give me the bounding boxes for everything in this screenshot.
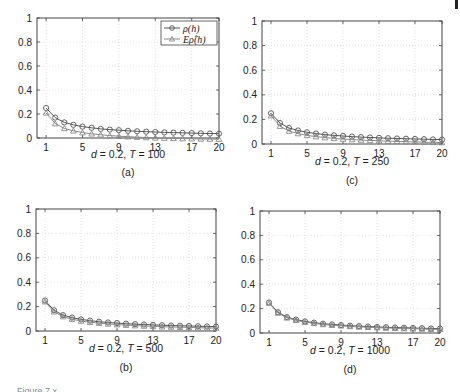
x-tick-label: 1: [266, 337, 272, 348]
x-tick-label: 5: [302, 337, 308, 348]
y-tick-label: 0.2: [241, 303, 255, 314]
y-tick-label: 0.6: [241, 254, 255, 265]
y-tick-label: 0.8: [241, 230, 255, 241]
x-tick-label: 17: [407, 337, 419, 348]
chart-panel-d: 00.20.40.60.81159131720d = 0.2, T = 1000…: [0, 0, 460, 392]
x-tick-label: 20: [434, 337, 446, 348]
chart-svg-d: 00.20.40.60.81159131720d = 0.2, T = 1000…: [0, 0, 460, 392]
panel-label: (d): [344, 363, 357, 375]
y-tick-label: 0: [249, 328, 255, 339]
y-tick-label: 1: [249, 206, 255, 217]
figure-caption-fragment: Figure 7.x: [17, 386, 167, 392]
y-tick-label: 0.4: [241, 279, 255, 290]
series-expected-rho-hat: [266, 300, 443, 331]
x-axis-label: d = 0.2, T = 1000: [310, 344, 390, 356]
